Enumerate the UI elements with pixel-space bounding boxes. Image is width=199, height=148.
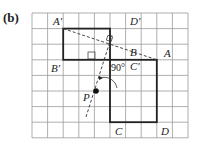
label-B: B xyxy=(130,47,137,58)
center-point-P xyxy=(93,88,99,94)
label-D: D xyxy=(161,126,169,137)
label-A-prime: A′ xyxy=(53,16,62,27)
angle-arrow-icon xyxy=(99,76,103,80)
label-B-prime: B′ xyxy=(51,63,60,74)
label-D-prime: D′ xyxy=(130,16,140,27)
angle-label: 90° xyxy=(111,63,125,73)
label-A: A xyxy=(164,48,171,59)
label-C-prime: C′ xyxy=(130,61,140,72)
rotation-diagram xyxy=(0,0,199,148)
label-C: C xyxy=(115,126,122,137)
label-P: P xyxy=(83,92,90,103)
angle-arc xyxy=(100,77,117,88)
right-angle-marker-lower xyxy=(88,52,95,59)
